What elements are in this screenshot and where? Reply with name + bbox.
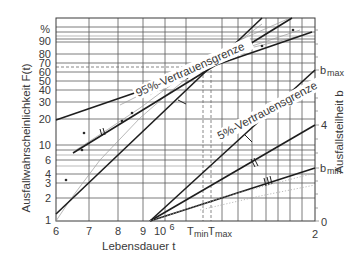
svg-text:0: 0 — [321, 216, 327, 228]
svg-text:2: 2 — [312, 228, 318, 240]
x-axis-tick-labels: 6 7 8 9 10 6 2 — [53, 222, 318, 240]
svg-text:10: 10 — [154, 225, 166, 237]
x-axis-title: Lebensdauer t — [102, 240, 176, 252]
svg-text:6: 6 — [169, 222, 174, 232]
svg-text:b: b — [320, 162, 326, 174]
svg-text:%: % — [40, 23, 50, 35]
right-axis-ticks — [315, 30, 319, 221]
y-axis-title: Ausfallwahrscheinlichkeit F(t) — [20, 63, 32, 212]
tmin-label: T min — [187, 225, 209, 239]
tmax-label: T max — [208, 225, 233, 239]
svg-text:max: max — [215, 229, 233, 239]
svg-text:20: 20 — [39, 113, 51, 125]
svg-text:40: 40 — [39, 84, 51, 96]
y-axis-tick-labels: % 90 80 70 60 50 40 30 20 10 6 4 3 2 1 — [39, 23, 51, 226]
svg-text:1: 1 — [45, 214, 51, 226]
svg-text:30: 30 — [39, 96, 51, 108]
weibull-probability-chart: 95%-Vertrauensgrenze 5%-Vertrauensgrenze… — [0, 0, 362, 263]
svg-text:4: 4 — [321, 119, 327, 131]
svg-text:max: max — [327, 68, 345, 78]
svg-text:8: 8 — [115, 225, 121, 237]
fit-line-II — [73, 18, 292, 153]
lower-band-label: 5%-Vertrauensgrenze — [214, 77, 324, 144]
svg-text:T: T — [208, 225, 215, 237]
svg-text:6: 6 — [45, 154, 51, 166]
svg-text:min: min — [194, 229, 209, 239]
svg-text:7: 7 — [86, 225, 92, 237]
svg-text:2: 2 — [45, 192, 51, 204]
svg-text:10: 10 — [39, 139, 51, 151]
svg-text:6: 6 — [53, 225, 59, 237]
y2-axis-title: Ausfallsteilheit b — [333, 90, 345, 173]
upper-band-label: 95%-Vertrauensgrenze — [132, 37, 254, 101]
svg-text:b: b — [320, 64, 326, 76]
svg-text:T: T — [187, 225, 194, 237]
slope-bound-lowest — [200, 185, 315, 210]
svg-text:9: 9 — [140, 225, 146, 237]
svg-text:3: 3 — [45, 177, 51, 189]
vertical-gridlines — [89, 18, 302, 221]
plot-frame — [56, 18, 315, 221]
svg-text:90: 90 — [39, 35, 51, 47]
